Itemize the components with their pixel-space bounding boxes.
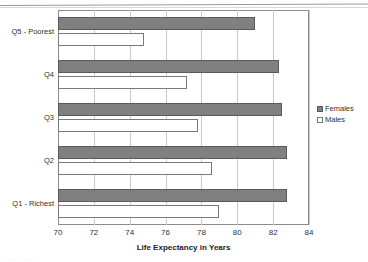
tick-label: 76 <box>161 228 170 237</box>
bar-group <box>58 10 309 53</box>
bar-group <box>58 139 309 182</box>
bar-females[interactable] <box>58 60 279 73</box>
tick-label: 72 <box>89 228 98 237</box>
legend-label-females: Females <box>325 104 354 113</box>
bar-males[interactable] <box>58 33 144 46</box>
tick-label: 70 <box>54 228 63 237</box>
bar-males[interactable] <box>58 162 212 175</box>
category-label: Q3 <box>44 113 54 122</box>
category-label: Q2 <box>44 156 54 165</box>
legend-swatch-males-icon <box>317 117 323 123</box>
life-expectancy-bar-chart: Q5 - PoorestQ4Q3Q2Q1 - Richest 707274767… <box>0 0 368 262</box>
tick-label: 84 <box>305 228 314 237</box>
bar-group <box>58 53 309 96</box>
category-label: Q4 <box>44 70 54 79</box>
bar-males[interactable] <box>58 205 219 218</box>
bar-females[interactable] <box>58 146 287 159</box>
x-axis-title: Life Expectancy in Years <box>58 243 309 252</box>
category-label: Q1 - Richest <box>12 199 54 208</box>
bar-males[interactable] <box>58 76 187 89</box>
bar-females[interactable] <box>58 17 255 30</box>
tick-label: 80 <box>233 228 242 237</box>
legend-item-males[interactable]: Males <box>317 114 365 125</box>
gridline <box>309 10 310 225</box>
bar-group <box>58 182 309 225</box>
legend-label-males: Males <box>325 115 345 124</box>
bar-group <box>58 96 309 139</box>
tick-label: 74 <box>125 228 134 237</box>
tick-label: 78 <box>197 228 206 237</box>
bar-males[interactable] <box>58 119 198 132</box>
legend-item-females[interactable]: Females <box>317 103 365 114</box>
chart-legend: Females Males <box>317 103 365 125</box>
bar-females[interactable] <box>58 189 287 202</box>
category-label: Q5 - Poorest <box>11 27 54 36</box>
scan-artifact-footer: · ···· ·· ···· ·· <box>4 257 154 262</box>
bar-females[interactable] <box>58 103 282 116</box>
tick-label: 82 <box>269 228 278 237</box>
legend-swatch-females-icon <box>317 106 323 112</box>
